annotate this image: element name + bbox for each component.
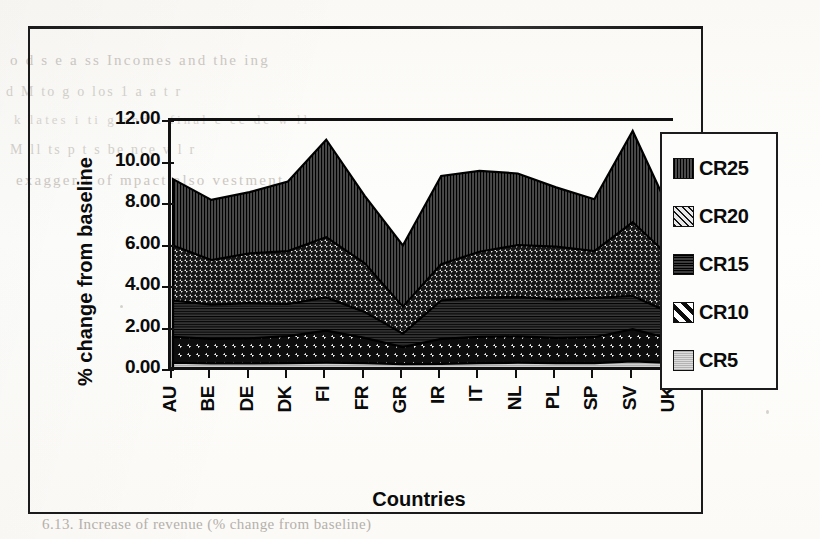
y-tick-label: 4.00 (84, 273, 160, 295)
y-axis-ticks: 0.002.004.006.008.0010.0012.00 (84, 118, 160, 418)
x-tick-mark (630, 367, 632, 378)
x-tick-label-au: AU (159, 386, 181, 412)
x-tick-label-fr: FR (351, 386, 373, 410)
y-tick-mark (162, 245, 174, 247)
legend-item-cr5[interactable]: CR5 (662, 336, 776, 384)
x-tick-label-dk: DK (274, 386, 296, 412)
x-tick-mark (515, 367, 517, 378)
x-tick-label-de: DE (236, 386, 258, 411)
area-series-group (171, 121, 673, 370)
x-tick-mark (170, 367, 172, 378)
legend-label: CR20 (699, 205, 749, 228)
x-tick-label-pl: PL (542, 386, 564, 409)
legend-item-cr25[interactable]: CR25 (662, 144, 776, 192)
x-tick-label-it: IT (465, 386, 487, 402)
y-tick-label: 2.00 (84, 315, 160, 337)
y-tick-mark (162, 286, 174, 288)
x-tick-mark (553, 367, 555, 378)
legend-label: CR10 (699, 301, 749, 324)
legend-item-cr10[interactable]: CR10 (662, 288, 776, 336)
x-axis-title: Countries (168, 488, 670, 511)
x-tick-mark (285, 367, 287, 378)
legend-label: CR15 (699, 253, 749, 276)
x-tick-label-sv: SV (619, 386, 641, 410)
x-tick-mark (476, 367, 478, 378)
chart-legend: CR25CR20CR15CR10CR5 (660, 132, 778, 390)
scan-speck (766, 410, 769, 414)
legend-swatch-dense-vertical-lines (673, 158, 694, 179)
y-tick-mark (162, 162, 174, 164)
x-tick-mark (591, 367, 593, 378)
x-tick-label-be: BE (197, 386, 219, 411)
x-tick-mark (400, 367, 402, 378)
plot-area (168, 118, 673, 370)
legend-item-cr15[interactable]: CR15 (662, 240, 776, 288)
scanned-page: o d s e a ss Incomes and the ing d M to … (0, 0, 820, 539)
y-axis-title-wrap: % change from baseline (74, 386, 75, 387)
legend-item-cr20[interactable]: CR20 (662, 192, 776, 240)
legend-swatch-light-gray-dots (673, 350, 694, 371)
x-tick-label-sp: SP (580, 386, 602, 410)
y-tick-label: 6.00 (84, 232, 160, 254)
legend-label: CR25 (699, 157, 749, 180)
plot-inner (171, 121, 673, 370)
y-tick-label: 12.00 (84, 107, 160, 129)
x-tick-mark (323, 367, 325, 378)
x-tick-label-fi: FI (312, 386, 334, 402)
figure-caption: 6.13. Increase of revenue (% change from… (42, 516, 371, 533)
y-tick-label: 8.00 (84, 190, 160, 212)
legend-label: CR5 (699, 349, 738, 372)
y-tick-label: 0.00 (84, 356, 160, 378)
x-tick-label-nl: NL (504, 386, 526, 410)
x-tick-label-gr: GR (389, 386, 411, 414)
x-tick-mark (362, 367, 364, 378)
x-tick-mark (247, 367, 249, 378)
y-tick-mark (162, 328, 174, 330)
stacked-area-chart: % change from baseline 0.002.004.006.008… (40, 118, 700, 418)
legend-swatch-bold-diagonal-stripes (673, 302, 694, 323)
x-tick-mark (208, 367, 210, 378)
legend-swatch-fine-diagonal-hatch (673, 206, 694, 227)
x-tick-label-ir: IR (427, 386, 449, 404)
legend-swatch-dark-horizontal-lines (673, 254, 694, 275)
x-axis-line (168, 367, 673, 370)
y-tick-mark (162, 203, 174, 205)
y-tick-mark (162, 120, 174, 122)
x-tick-mark (438, 367, 440, 378)
y-tick-label: 10.00 (84, 149, 160, 171)
